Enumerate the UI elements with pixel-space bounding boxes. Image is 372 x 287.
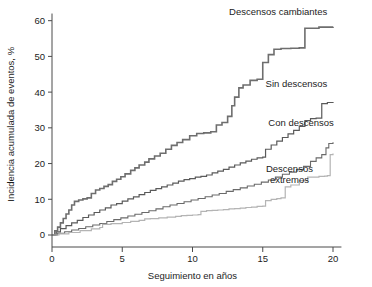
x-tick-label-10: 10 [187,253,198,264]
series-label-3-line2: extremos [270,174,309,185]
series-curve-0 [52,27,333,235]
axes-layer: 010203040506005101520 [34,14,341,264]
series-label-3: Descensos [266,163,313,174]
y-tick-label-0: 0 [40,229,45,240]
y-tick-label-30: 30 [34,122,45,133]
curves-layer [52,27,333,235]
series-label-2: Con descensos [268,117,334,128]
y-axis-title: Incidencia acumulada de eventos, % [5,46,16,201]
x-axis-title: Seguimiento en años [148,270,238,281]
x-tick-label-5: 5 [120,253,125,264]
y-tick-label-50: 50 [34,51,45,62]
series-label-1: Sin descensos [266,78,328,89]
series-label-0: Descensos cambiantes [229,6,327,17]
x-tick-label-0: 0 [49,253,54,264]
labels-layer: Seguimiento en añosIncidencia acumulada … [5,6,334,281]
y-tick-label-20: 20 [34,158,45,169]
y-tick-label-60: 60 [34,15,45,26]
chart-figure: 010203040506005101520 Seguimiento en año… [0,0,372,287]
y-tick-label-40: 40 [34,87,45,98]
y-tick-label-10: 10 [34,194,45,205]
x-tick-label-15: 15 [257,253,268,264]
series-curve-2 [52,142,333,235]
x-tick-label-20: 20 [328,253,339,264]
cumulative-incidence-chart: 010203040506005101520 Seguimiento en año… [0,0,372,287]
